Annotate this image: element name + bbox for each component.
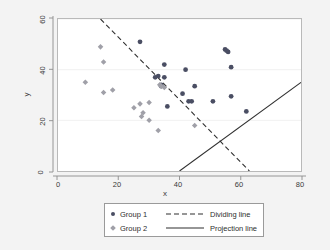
x-tick-label-20: 20 [111, 180, 123, 189]
y-tick-label-40: 40 [38, 66, 47, 74]
legend-row-1: Group 1 Dividing line [111, 207, 257, 221]
solid-line-icon [165, 223, 205, 233]
legend-label-dividing-line: Dividing line [210, 210, 250, 219]
y-axis-title: y [22, 93, 31, 97]
legend-label-group1: Group 1 [120, 210, 147, 219]
dashed-line-icon [165, 209, 205, 219]
y-tick-label-20: 20 [38, 117, 47, 125]
x-tick-label-40: 40 [172, 180, 184, 189]
legend-entry-projection-line: Projection line [165, 223, 257, 233]
legend-label-group2: Group 2 [120, 224, 147, 233]
legend-label-projection-line: Projection line [210, 224, 257, 233]
legend-entry-dividing-line: Dividing line [165, 209, 250, 219]
scatter-plot-figure: 0 20 40 60 0 20 40 60 80 y x Group 1 Div… [0, 0, 330, 250]
legend-entry-group2: Group 2 [111, 224, 165, 233]
x-tick-label-0: 0 [54, 180, 62, 189]
x-tick-label-80: 80 [294, 180, 306, 189]
y-tick-label-60: 60 [38, 15, 47, 23]
legend-entry-group1: Group 1 [111, 210, 165, 219]
group2-marker-icon [110, 225, 116, 231]
x-axis-title: x [0, 189, 330, 198]
y-tick-label-0: 0 [36, 170, 45, 174]
legend-row-2: Group 2 Projection line [111, 221, 257, 235]
x-tick-label-60: 60 [233, 180, 245, 189]
group1-marker-icon [111, 212, 115, 216]
legend: Group 1 Dividing line Group 2 Projection… [104, 203, 264, 237]
